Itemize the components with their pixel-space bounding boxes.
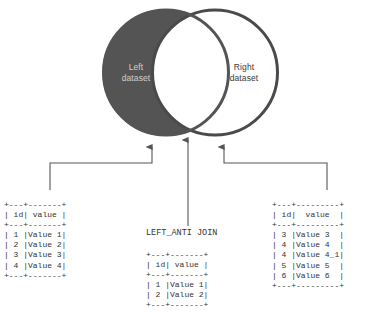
right-dataset-connector [224,147,327,190]
result-table: +---+-------+ | id| value | +---+-------… [146,250,208,311]
left-dataset-table: +---+-------+ | id| value | +---+-------… [4,200,66,281]
right-dataset-table: +---+---------+ | id| value | +---+-----… [272,200,344,291]
left-dataset-connector [50,147,152,190]
join-type-caption: LEFT_ANTI JOIN [146,228,217,238]
diagram-canvas: Left dataset Right dataset +---+-------+… [0,0,378,316]
